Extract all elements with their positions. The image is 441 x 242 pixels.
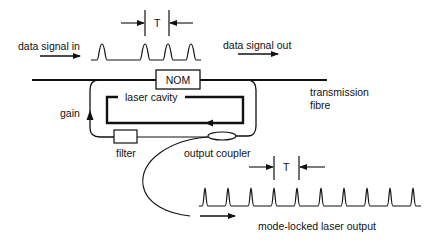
output-coupler-label: output coupler — [184, 147, 251, 159]
data-in-pulse-train — [91, 44, 201, 60]
mode-locked-pulse-train — [199, 188, 421, 206]
cavity-direction-arrow-icon — [205, 120, 213, 127]
data-signal-in-label: data signal in — [18, 40, 80, 52]
transmission-fibre-label-1: transmission — [310, 86, 369, 98]
period-top-label: T — [154, 17, 161, 29]
transmission-fibre-label-2: fibre — [310, 99, 331, 111]
filter-box — [114, 130, 137, 143]
filter-label: filter — [116, 147, 136, 159]
output-coupler-ellipse — [208, 132, 236, 140]
period-bottom-label: T — [283, 161, 290, 173]
gain-arrow-icon — [87, 110, 94, 120]
cavity-loop-right — [236, 80, 256, 136]
data-signal-out-label: data signal out — [223, 39, 291, 51]
nom-label: NOM — [166, 74, 191, 86]
gain-label: gain — [60, 107, 80, 119]
mode-locked-output-label: mode-locked laser output — [258, 220, 376, 232]
laser-cavity-label: laser cavity — [125, 91, 178, 103]
mode-locked-laser-diagram: data signal in T data signal out transmi… — [0, 0, 441, 242]
cavity-loop-left — [90, 80, 114, 137]
